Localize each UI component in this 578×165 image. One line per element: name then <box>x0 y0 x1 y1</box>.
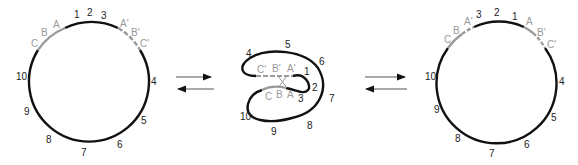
label-10: 10 <box>240 111 252 122</box>
label-B-prime: B' <box>131 27 140 38</box>
label-10: 10 <box>425 71 437 82</box>
label-9: 9 <box>24 106 30 117</box>
label-7: 7 <box>329 93 335 104</box>
label-6: 6 <box>117 139 123 150</box>
label-10: 10 <box>16 71 28 82</box>
left-circle: 1 2 3 4 5 6 7 8 9 10 C B A A' B' C' <box>16 7 157 158</box>
label-A: A <box>526 16 533 27</box>
label-B-prime: B' <box>272 63 281 74</box>
label-7: 7 <box>489 148 495 159</box>
label-B: B <box>276 89 283 100</box>
label-9: 9 <box>434 104 440 115</box>
label-C: C <box>31 38 38 49</box>
label-6: 6 <box>524 139 530 150</box>
label-1: 1 <box>304 66 310 77</box>
label-C: C <box>444 34 451 45</box>
label-A-prime: A' <box>287 63 296 74</box>
label-B: B <box>453 25 460 36</box>
label-A-prime: A' <box>464 16 473 27</box>
label-7: 7 <box>81 147 87 158</box>
label-6: 6 <box>319 56 325 67</box>
label-2: 2 <box>312 82 318 93</box>
label-A: A <box>53 19 60 30</box>
label-C: C <box>265 91 272 102</box>
label-4: 4 <box>246 48 252 59</box>
label-5: 5 <box>551 112 557 123</box>
arrows-left-middle <box>176 77 214 89</box>
label-3: 3 <box>298 93 304 104</box>
label-C-prime: C' <box>547 39 556 50</box>
label-5: 5 <box>285 39 291 50</box>
label-A: A <box>287 89 294 100</box>
label-3: 3 <box>476 9 482 20</box>
label-2: 2 <box>87 7 93 18</box>
label-1: 1 <box>512 11 518 22</box>
label-B-prime: B' <box>537 27 546 38</box>
label-3: 3 <box>101 10 107 21</box>
label-8: 8 <box>455 133 461 144</box>
label-B: B <box>41 27 48 38</box>
label-8: 8 <box>307 120 313 131</box>
label-9: 9 <box>271 126 277 137</box>
middle-folded-loop: C' B' A' C B A 1 2 3 4 5 6 7 8 9 10 <box>240 39 335 137</box>
label-5: 5 <box>141 115 147 126</box>
label-C-prime: C' <box>140 38 149 49</box>
label-8: 8 <box>46 134 52 145</box>
label-2: 2 <box>494 7 500 18</box>
right-circle: 3 2 1 4 5 6 7 8 9 10 C B A' A B' C' <box>425 7 565 159</box>
label-A-prime: A' <box>120 18 129 29</box>
label-1: 1 <box>74 9 80 20</box>
label-C-prime: C' <box>257 64 266 75</box>
arrows-middle-right <box>365 77 407 89</box>
label-4: 4 <box>151 76 157 87</box>
recombination-diagram: 1 2 3 4 5 6 7 8 9 10 C B A A' B' C' C' B… <box>0 0 578 165</box>
label-4: 4 <box>559 76 565 87</box>
